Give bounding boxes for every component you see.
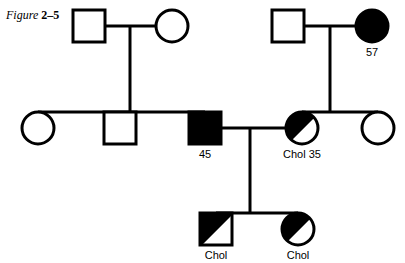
- label-individual-iii-1: Chol: [205, 249, 228, 261]
- individual-iii-1-male-half-affected[interactable]: [200, 213, 232, 245]
- label-individual-ii-4: Chol 35: [283, 148, 321, 160]
- figure-caption: Figure2–5: [6, 8, 59, 22]
- individual-i-1-male-open[interactable]: [73, 10, 105, 42]
- label-individual-i-4: 57: [366, 46, 378, 58]
- individual-i-2-female-open[interactable]: [156, 10, 188, 42]
- figure-caption-word: Figure: [6, 8, 38, 22]
- figure-caption-number: 2–5: [41, 8, 59, 22]
- individual-i-3-male-open[interactable]: [272, 10, 304, 42]
- individual-ii-3-male-affected[interactable]: [189, 112, 221, 144]
- individual-ii-4-female-half-affected[interactable]: [286, 112, 318, 144]
- label-individual-ii-3: 45: [199, 148, 211, 160]
- pedigree-drawing: [0, 0, 405, 263]
- individual-i-4-female-affected[interactable]: [356, 10, 388, 42]
- individual-ii-1-female-open[interactable]: [22, 112, 54, 144]
- pedigree-figure: Figure2–5: [0, 0, 405, 263]
- individual-ii-5-female-open[interactable]: [362, 112, 394, 144]
- individual-ii-2-male-open[interactable]: [104, 112, 136, 144]
- label-individual-iii-2: Chol: [287, 249, 310, 261]
- individual-iii-2-female-half-affected[interactable]: [282, 213, 314, 245]
